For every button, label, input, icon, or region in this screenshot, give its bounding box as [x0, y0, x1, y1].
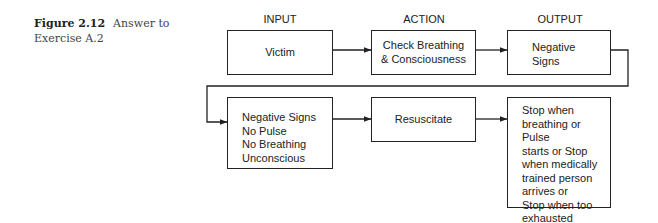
- box-victim: Victim: [227, 30, 333, 75]
- box-negative-output-line-2: Signs: [532, 55, 610, 69]
- box-resuscitate-label: Resuscitate: [395, 113, 452, 127]
- box-negative-signs-output: Negative Signs: [507, 30, 611, 75]
- box-negative-signs-input: Negative Signs No Pulse No Breathing Unc…: [227, 97, 333, 169]
- box-stop-line-5: trained person: [522, 172, 610, 186]
- box-negative-input-line-3: No Breathing: [242, 138, 332, 152]
- box-stop-line-8: exhausted: [522, 212, 610, 223]
- box-resuscitate: Resuscitate: [371, 97, 476, 142]
- box-stop-line-4: when medically: [522, 158, 610, 172]
- box-stop-line-7: Stop when too: [522, 199, 610, 213]
- box-negative-input-line-4: Unconscious: [242, 152, 332, 166]
- box-stop-line-3: starts or Stop: [522, 145, 610, 159]
- box-negative-input-line-2: No Pulse: [242, 125, 332, 139]
- box-stop-line-2: breathing or Pulse: [522, 118, 610, 145]
- box-victim-label: Victim: [265, 46, 295, 60]
- box-check-line-2: & Consciousness: [381, 53, 466, 67]
- box-negative-input-line-1: Negative Signs: [242, 111, 332, 125]
- box-negative-output-line-1: Negative: [532, 41, 610, 55]
- box-stop-line-6: arrives or: [522, 185, 610, 199]
- box-stop-conditions: Stop when breathing or Pulse starts or S…: [507, 97, 611, 208]
- box-stop-line-1: Stop when: [522, 104, 610, 118]
- box-check-line-1: Check Breathing: [381, 39, 466, 53]
- box-check-breathing: Check Breathing & Consciousness: [371, 30, 476, 75]
